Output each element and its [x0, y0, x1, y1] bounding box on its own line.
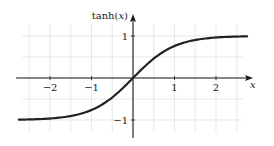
- tanh-chart: −2 −1 1 2 1 −1 x tanh(x): [0, 0, 274, 146]
- x-tick-label: 1: [171, 82, 177, 93]
- x-tick-label: −1: [84, 82, 99, 93]
- x-tick-label: −2: [43, 82, 58, 93]
- y-tick-label: 1: [122, 31, 128, 42]
- y-tick-label: −1: [113, 115, 128, 126]
- x-axis-label: x: [250, 79, 256, 90]
- x-tick-label: 2: [213, 82, 219, 93]
- y-axis-label: tanh(x): [92, 10, 128, 21]
